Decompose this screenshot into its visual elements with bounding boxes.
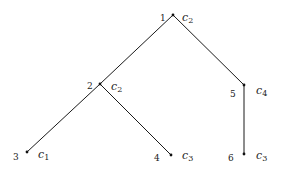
node-class-label: c2 <box>111 80 122 94</box>
edge-1-5 <box>173 15 244 85</box>
tree-node-4: 4c3 <box>154 149 193 163</box>
node-dot-icon <box>243 84 246 87</box>
node-dot-icon <box>26 151 29 154</box>
tree-node-3: 3c1 <box>13 148 49 162</box>
tree-diagram: 1c22c23c14c35c46c3 <box>0 0 285 171</box>
node-class-label: c4 <box>256 84 267 98</box>
node-index-label: 2 <box>87 81 93 91</box>
node-dot-icon <box>170 154 173 157</box>
tree-edges <box>27 15 244 155</box>
edge-1-2 <box>100 15 173 84</box>
node-class-label: c1 <box>38 148 49 162</box>
edge-2-3 <box>27 84 100 152</box>
node-index-label: 6 <box>228 153 234 163</box>
node-index-label: 3 <box>13 152 19 162</box>
node-class-label: c2 <box>182 11 193 25</box>
node-class-label: c3 <box>256 149 267 163</box>
node-index-label: 4 <box>154 153 160 163</box>
node-dot-icon <box>172 14 175 17</box>
tree-node-6: 6c3 <box>228 149 267 163</box>
node-index-label: 5 <box>230 89 236 99</box>
node-dot-icon <box>99 83 102 86</box>
tree-nodes: 1c22c23c14c35c46c3 <box>13 11 267 163</box>
tree-node-2: 2c2 <box>87 80 122 94</box>
tree-node-5: 5c4 <box>230 84 267 99</box>
node-class-label: c3 <box>182 149 193 163</box>
node-index-label: 1 <box>160 13 166 23</box>
node-dot-icon <box>243 153 246 156</box>
edge-2-4 <box>100 84 171 155</box>
